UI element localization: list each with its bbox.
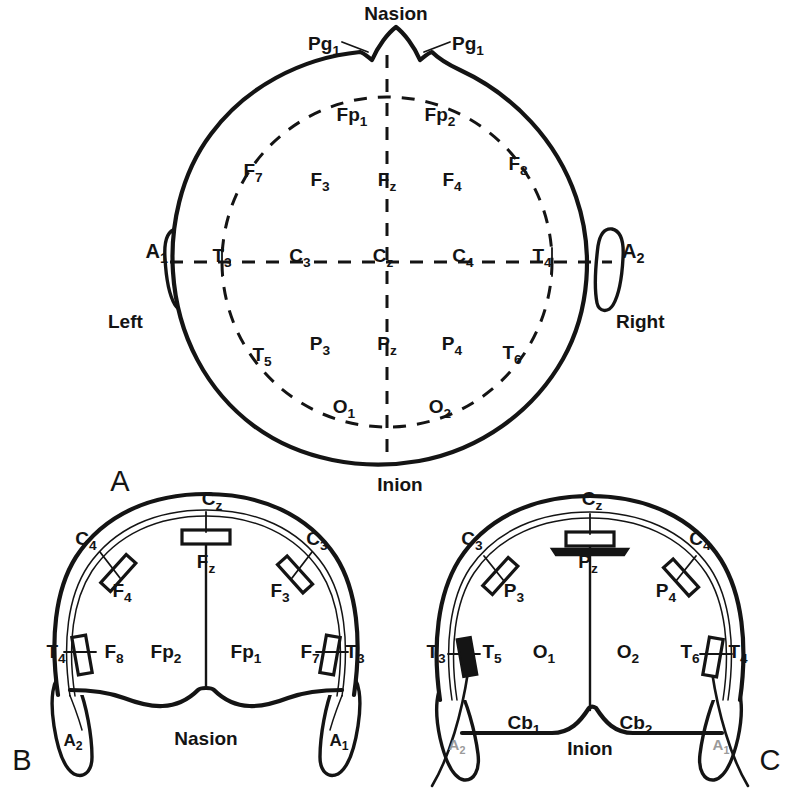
panel-b: Nasion A2 A1 B CzC4C3FzF4F3T4F8Fp2Fp1F7T…	[12, 488, 365, 776]
pg1-left-label: Pg1	[308, 33, 340, 58]
eeg-1020-figure: Nasion Pg1 Pg1 A1 A2 Left Right Inion A …	[0, 0, 792, 793]
inion-label-c: Inion	[567, 738, 612, 759]
inion-label-a: Inion	[377, 474, 422, 495]
panel-c-neck-contour	[462, 707, 722, 734]
pg-right-leader	[424, 42, 450, 52]
panel-c-letter: C	[760, 744, 781, 776]
left-label: Left	[108, 311, 144, 332]
panel-b-letter: B	[12, 744, 31, 776]
panel-a: Nasion Pg1 Pg1 A1 A2 Left Right Inion A …	[108, 3, 665, 497]
right-label: Right	[616, 311, 665, 332]
nasion-label-b: Nasion	[174, 728, 237, 749]
panel-a-letter: A	[110, 465, 130, 497]
nasion-label-a: Nasion	[364, 3, 427, 24]
ear-right-outline	[595, 229, 623, 311]
panel-c: Inion A2 A1 C CzC3C4PzP3P4T3T5O1O2T6T4 C…	[426, 488, 780, 786]
pg1-right-label: Pg1	[452, 33, 484, 58]
a2-label-a: A2	[622, 240, 644, 266]
